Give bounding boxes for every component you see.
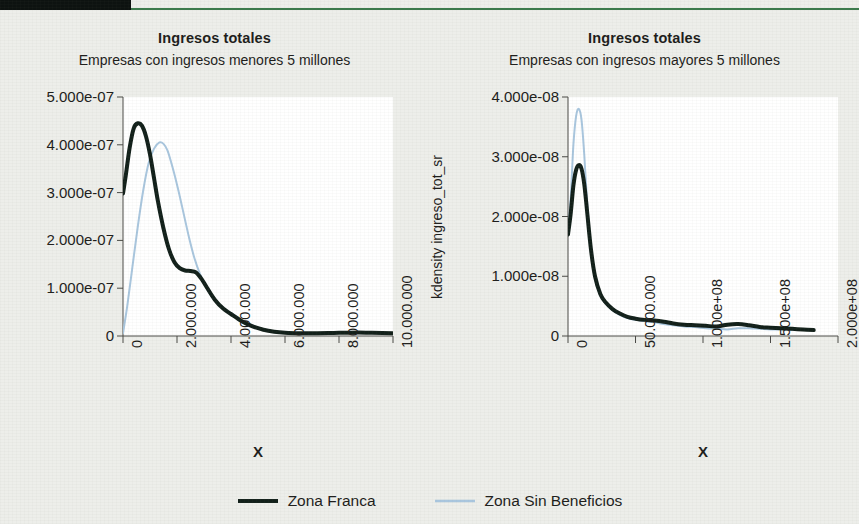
x-tick-label: 6.000.000 xyxy=(291,283,307,348)
chart-subtitle-left: Empresas con ingresos menores 5 millones xyxy=(0,52,429,68)
chart-panel-left: Ingresos totales Empresas con ingresos m… xyxy=(0,14,429,464)
chart-subtitle-right: Empresas con ingresos mayores 5 millones xyxy=(430,52,859,68)
y-axis-title: kdensity ingreso_tot_sr xyxy=(429,155,445,299)
plot-svg-left xyxy=(123,97,407,354)
legend-label-zona-franca: Zona Franca xyxy=(288,492,376,510)
legend-label-zona-sin-beneficios: Zona Sin Beneficios xyxy=(485,492,623,510)
x-tick-label: 0 xyxy=(129,340,145,348)
chart-panel-right: Ingresos totales Empresas con ingresos m… xyxy=(430,14,859,464)
legend-swatch-zona-sin-beneficios xyxy=(434,496,476,506)
y-tick-label: 1.000e-07 xyxy=(0,279,114,296)
y-tick-label: 4.000e-07 xyxy=(0,136,114,153)
y-tick-label: 3.000e-07 xyxy=(0,184,114,201)
plot-area-left: 01.000e-072.000e-073.000e-074.000e-075.0… xyxy=(123,97,393,336)
y-tick-label: 3.000e-08 xyxy=(439,148,559,165)
y-tick-label: 1.000e-08 xyxy=(439,267,559,284)
legend-item-zona-franca: Zona Franca xyxy=(237,492,376,510)
chart-title-right: Ingresos totales xyxy=(430,30,859,46)
x-tick-label: 50.000.000 xyxy=(642,275,658,348)
plot-area-right: 01.000e-082.000e-083.000e-084.000e-08050… xyxy=(568,97,838,336)
chart-title-left: Ingresos totales xyxy=(0,30,429,46)
y-tick-label: 2.000e-08 xyxy=(439,208,559,225)
x-tick-label: 4.000.000 xyxy=(237,283,253,348)
legend-item-zona-sin-beneficios: Zona Sin Beneficios xyxy=(434,492,623,510)
x-tick-label: 1.000e+08 xyxy=(709,279,725,348)
chart-legend: Zona Franca Zona Sin Beneficios xyxy=(0,487,859,515)
page-header-bar xyxy=(0,0,859,12)
y-tick-label: 4.000e-08 xyxy=(439,88,559,105)
y-tick-label: 0 xyxy=(0,327,114,344)
header-black-block xyxy=(0,0,131,10)
x-tick-label: 1.500e+08 xyxy=(777,279,793,348)
y-tick-label: 2.000e-07 xyxy=(0,231,114,248)
x-tick-label: 0 xyxy=(574,340,590,348)
x-tick-label: 8.000.000 xyxy=(345,283,361,348)
y-tick-label: 0 xyxy=(439,327,559,344)
x-tick-label: 2.000.000 xyxy=(183,283,199,348)
y-tick-label: 5.000e-07 xyxy=(0,88,114,105)
x-axis-title: X xyxy=(568,443,838,460)
legend-swatch-zona-franca xyxy=(237,496,279,506)
x-axis-title: X xyxy=(123,443,393,460)
x-tick-label: 2.000e+08 xyxy=(844,279,859,348)
x-tick-label: 10.000.000 xyxy=(399,275,415,348)
plot-background xyxy=(568,97,838,336)
